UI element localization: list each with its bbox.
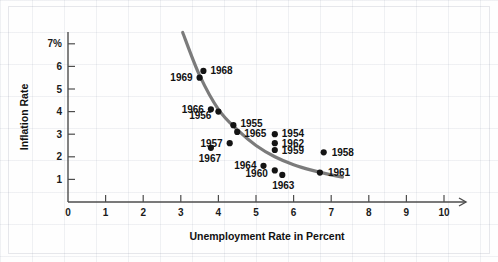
y-tick-label-4: 4 [56,106,62,117]
data-point-label-1959: 1959 [282,145,305,156]
data-point-label-1960: 1960 [246,168,269,179]
phillips-curve-chart: 1234567% 012345678910 196819691966195619… [0,0,498,262]
x-axis-ticks: 012345678910 [65,195,450,218]
data-point-label-1961: 1961 [328,167,351,178]
data-point-label-1955: 1955 [240,118,263,129]
x-tick-label-7: 7 [328,207,334,218]
x-tick-label-5: 5 [253,207,259,218]
x-tick-label-9: 9 [404,207,410,218]
data-point-labels-group: 1968196919661956195519651957196719541962… [170,65,354,190]
x-tick-label-0: 0 [65,207,71,218]
x-axis-title: Unemployment Rate in Percent [189,230,345,242]
y-axis-title: Inflation Rate [18,84,30,151]
x-tick-label-3: 3 [178,207,184,218]
data-point-1955 [230,122,236,128]
data-point-1965 [234,129,240,135]
y-tick-label-7%: 7% [48,38,63,49]
axes-group [68,32,466,206]
data-point-label-1968: 1968 [210,65,233,76]
y-tick-label-3: 3 [56,129,62,140]
data-point-label-1963: 1963 [272,180,295,191]
x-tick-label-4: 4 [216,207,222,218]
x-tick-label-6: 6 [291,207,297,218]
data-point-1968 [200,68,206,74]
data-point-label-1956: 1956 [189,110,212,121]
data-point-label-1957: 1957 [200,138,223,149]
y-tick-label-1: 1 [56,174,62,185]
data-point-1957 [227,140,233,146]
plot-area: 1234567% 012345678910 196819691966195619… [0,0,498,262]
x-tick-label-8: 8 [366,207,372,218]
data-point-1960 [272,167,278,173]
y-axis-ticks: 1234567% [48,38,75,185]
x-tick-label-2: 2 [140,207,146,218]
data-point-1958 [321,149,327,155]
data-point-1969 [197,75,203,81]
data-point-1956 [215,109,221,115]
x-tick-label-10: 10 [438,207,450,218]
data-point-label-1958: 1958 [332,147,355,158]
data-point-1962 [272,140,278,146]
data-point-1959 [272,147,278,153]
data-point-1963 [279,172,285,178]
data-point-label-1969: 1969 [170,72,193,83]
x-tick-label-1: 1 [103,207,109,218]
y-tick-label-6: 6 [56,61,62,72]
data-point-1954 [272,131,278,137]
y-tick-label-2: 2 [56,151,62,162]
y-tick-label-5: 5 [56,84,62,95]
data-point-label-1965: 1965 [244,128,267,139]
data-point-1961 [317,170,323,176]
data-point-label-1967: 1967 [199,153,222,164]
